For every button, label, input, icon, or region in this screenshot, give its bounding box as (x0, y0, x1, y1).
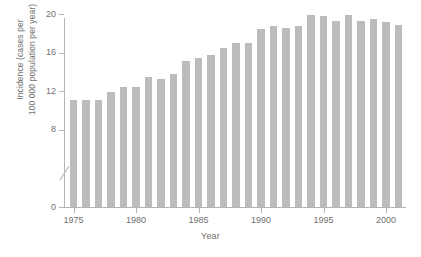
bar (320, 16, 328, 207)
bar (307, 15, 315, 207)
x-tick-label: 1980 (116, 216, 156, 225)
bar (170, 74, 178, 207)
bar (257, 29, 265, 207)
bar (95, 100, 103, 207)
bar (345, 15, 353, 207)
bar (295, 26, 303, 207)
bar (332, 21, 340, 207)
chart-figure: Incidence (cases per 100 000 population … (0, 0, 421, 257)
bar (182, 61, 190, 207)
bar (232, 43, 240, 207)
x-tick-mark (199, 208, 200, 213)
y-tick-mark (59, 53, 64, 54)
x-tick-label: 1975 (54, 216, 94, 225)
y-tick-label: 20 (32, 10, 56, 19)
bar (82, 100, 90, 207)
x-tick-label: 1995 (304, 216, 344, 225)
y-tick-mark (59, 14, 64, 15)
x-tick-mark (136, 208, 137, 213)
bar (395, 25, 403, 207)
x-tick-label: 1985 (179, 216, 219, 225)
x-axis-line (64, 207, 406, 208)
x-axis-title: Year (0, 231, 421, 241)
bar (70, 100, 78, 207)
y-tick-label: 0 (32, 203, 56, 212)
plot-area: 08121620 197519801985199019952000 (66, 14, 406, 207)
y-tick-mark (59, 130, 64, 131)
bar (120, 87, 128, 207)
y-tick-label: 8 (32, 125, 56, 134)
x-tick-label: 1990 (241, 216, 281, 225)
y-tick-label: 16 (32, 48, 56, 57)
bar (157, 79, 165, 207)
x-tick-mark (261, 208, 262, 213)
bar (107, 92, 115, 207)
bar (245, 43, 253, 207)
y-tick-mark (59, 207, 64, 208)
bar (382, 22, 390, 207)
bar (195, 58, 203, 207)
x-tick-mark (74, 208, 75, 213)
bar (207, 55, 215, 207)
bar (132, 87, 140, 207)
bar (220, 48, 228, 207)
bar (357, 21, 365, 207)
y-tick-label: 12 (32, 87, 56, 96)
bar (370, 19, 378, 207)
x-tick-mark (324, 208, 325, 213)
x-tick-label: 2000 (366, 216, 406, 225)
bar (145, 77, 153, 207)
y-axis-title: Incidence (cases per 100 000 population … (15, 0, 38, 130)
x-tick-mark (386, 208, 387, 213)
bar (270, 26, 278, 207)
bar (282, 28, 290, 207)
y-tick-mark (59, 91, 64, 92)
